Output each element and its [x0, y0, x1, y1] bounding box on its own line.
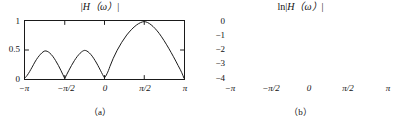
x-tick-label-b-neg-pi: −π — [214, 84, 246, 93]
x-tick-label-b-neg-pi-half: −π/2 — [253, 84, 289, 93]
curve-path-a — [25, 22, 184, 79]
x-tick-label-b-zero: 0 — [294, 84, 324, 93]
figure-container: |H（ω）| 1 0.5 0 −π −π/2 0 π/2 π — [0, 0, 401, 121]
y-tick-label-b-neg1: −1 — [202, 31, 225, 40]
chart-title-a-bar-close: | — [117, 1, 119, 12]
panel-caption-b: （b） — [200, 107, 401, 117]
chart-panel-b: ln|H（ω）| 0 −1 −2 −3 −4 −π −π/2 0 π/2 π — [200, 0, 401, 121]
chart-panel-a: |H（ω）| 1 0.5 0 −π −π/2 0 π/2 π — [0, 0, 200, 121]
chart-title-b: ln|H（ω）| — [200, 1, 401, 13]
x-tick-label-a-neg-pi: −π — [8, 84, 40, 93]
y-tick-label-b-neg2: −2 — [202, 45, 225, 54]
plot-area-a — [24, 20, 185, 80]
y-tick-label-b-neg3: −3 — [202, 59, 225, 68]
x-tick-label-b-pi: π — [375, 84, 401, 93]
chart-title-a-variable: H — [83, 1, 90, 12]
panel-caption-a: （a） — [0, 107, 200, 117]
chart-title-b-argument: （ω） — [294, 1, 321, 12]
y-tick-label-a-1: 1 — [2, 17, 20, 26]
x-tick-label-a-zero: 0 — [90, 84, 120, 93]
chart-title-b-bar-close: | — [322, 1, 324, 12]
tick-marks-a — [25, 21, 184, 79]
y-tick-label-a-0point5: 0.5 — [0, 45, 20, 54]
x-tick-label-b-pi-half: π/2 — [331, 84, 365, 93]
x-tick-label-a-pi-half: π/2 — [128, 84, 162, 93]
y-tick-label-b-0: 0 — [204, 17, 225, 26]
y-tick-label-b-neg4: −4 — [202, 74, 225, 83]
y-tick-label-a-0: 0 — [2, 75, 20, 84]
curve-a — [25, 21, 184, 79]
chart-title-a: |H（ω）| — [0, 1, 200, 13]
x-tick-label-a-neg-pi-half: −π/2 — [48, 84, 84, 93]
chart-title-a-argument: （ω） — [90, 1, 117, 12]
x-tick-label-a-pi: π — [172, 84, 198, 93]
